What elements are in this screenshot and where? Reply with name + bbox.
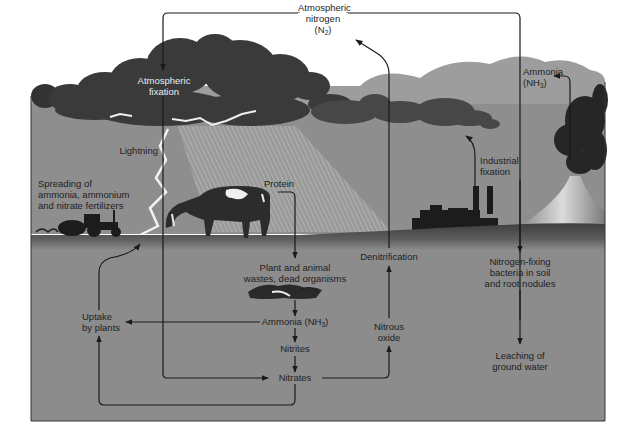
label-industrial-fixation: Industrial fixation — [480, 155, 519, 177]
label-atmospheric-nitrogen: Atmospheric nitrogen (N2) — [298, 2, 348, 35]
label-nitrogen-fixing-bacteria: Nitrogen-fixing bacteria in soil and roo… — [480, 256, 560, 289]
label-lightning: Lightning — [112, 145, 158, 156]
label-ammonia-volcano: Ammonia (NH3) — [523, 66, 563, 88]
label-uptake: Uptake by plants — [82, 311, 120, 333]
label-nitrates: Nitrates — [271, 372, 319, 383]
label-leaching: Leaching of ground water — [488, 350, 552, 372]
label-fertilizers: Spreading of ammonia, ammonium and nitra… — [38, 178, 129, 211]
label-protein: Protein — [264, 178, 294, 189]
label-wastes: Plant and animal wastes, dead organisms — [240, 262, 350, 284]
label-nitrous-oxide: Nitrous oxide — [369, 321, 409, 343]
label-denitrification: Denitrification — [357, 251, 421, 262]
label-nitrites: Nitrites — [275, 343, 315, 354]
label-atmospheric-fixation: Atmospheric fixation — [134, 75, 194, 97]
label-ammonia-soil: Ammonia (NH3) — [258, 316, 332, 327]
